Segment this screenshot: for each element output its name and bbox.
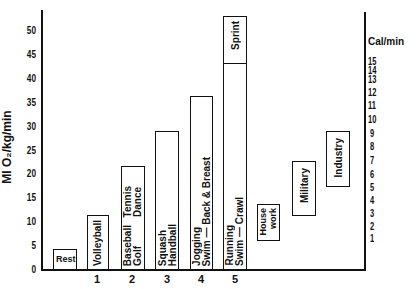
bar-jogging-swim: Jogging Swim — Back & Breast bbox=[190, 96, 213, 270]
y-tick: 45 bbox=[21, 49, 36, 60]
y-tick: 50 bbox=[21, 25, 36, 36]
right-axis-label: Cal/min bbox=[368, 36, 404, 47]
bar-military: Military bbox=[292, 161, 316, 216]
x-tick: 1 bbox=[94, 273, 100, 285]
bar-industry: Industry bbox=[326, 131, 350, 187]
r-tick: 6 bbox=[370, 170, 374, 180]
bar-baseball-golf-tennis-dance: Baseball Golf Tennis Dance bbox=[121, 166, 145, 270]
y-tick: 35 bbox=[21, 97, 36, 108]
r-tick: 13 bbox=[368, 75, 376, 85]
y-tick: 40 bbox=[21, 73, 36, 84]
r-tick: 9 bbox=[370, 129, 374, 139]
x-tick: 4 bbox=[198, 273, 204, 285]
bar-housework: House work bbox=[257, 204, 280, 241]
r-tick: 8 bbox=[370, 142, 374, 152]
r-tick: 12 bbox=[368, 88, 376, 98]
r-tick: 7 bbox=[370, 156, 374, 166]
r-tick: 4 bbox=[370, 196, 374, 206]
r-tick: 5 bbox=[370, 183, 374, 193]
y-tick: 10 bbox=[21, 216, 36, 227]
y-tick: 15 bbox=[21, 192, 36, 203]
y-tick: 25 bbox=[21, 145, 36, 156]
x-tick: 2 bbox=[129, 273, 135, 285]
x-tick: 3 bbox=[164, 273, 170, 285]
r-tick: 1 bbox=[370, 234, 374, 244]
bar-sprint: Sprint bbox=[223, 16, 247, 64]
r-tick: 10 bbox=[368, 115, 376, 125]
bar-volleyball: Volleyball bbox=[87, 215, 109, 270]
r-tick: 11 bbox=[368, 101, 376, 111]
y-tick: 0 bbox=[21, 264, 36, 275]
left-axis bbox=[41, 10, 43, 271]
r-tick: 3 bbox=[370, 209, 374, 219]
y-tick: 20 bbox=[21, 168, 36, 179]
x-tick: 5 bbox=[232, 273, 238, 285]
right-axis bbox=[364, 12, 366, 271]
y-tick: 5 bbox=[21, 240, 36, 251]
bar-running-swim-crawl: Running Swim — Crawl bbox=[223, 62, 247, 270]
r-tick: 2 bbox=[370, 222, 374, 232]
y-axis-label: Ml O₂/kg/min bbox=[0, 92, 14, 202]
y-tick: 30 bbox=[21, 121, 36, 132]
bar-squash-handball: Squash Handball bbox=[155, 131, 179, 270]
bar-rest: Rest bbox=[53, 249, 77, 270]
